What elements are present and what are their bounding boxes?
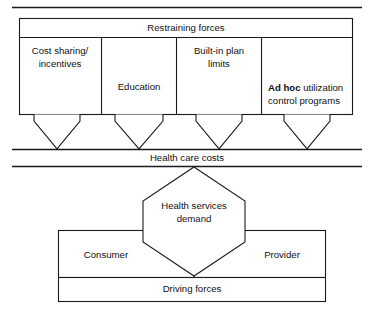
funnel-built-in-plan-limits	[177, 115, 262, 149]
restraining-column-cost-sharing-line1: Cost sharing/	[32, 45, 89, 56]
restraining-forces-label: Restraining forces	[147, 22, 225, 33]
health-services-demand-line2: demand	[177, 213, 212, 224]
ad-hoc-line2: control programs	[268, 95, 340, 106]
restraining-column-built-in-plan-limits-line2: limits	[208, 58, 230, 69]
funnel-education	[102, 115, 177, 149]
restraining-column-built-in-plan-limits-line1: Built-in plan	[194, 45, 244, 56]
driving-forces-label: Driving forces	[163, 283, 222, 294]
restraining-column-education-line1: Education	[118, 81, 161, 92]
ad-hoc-bold-prefix: Ad hoc	[268, 82, 301, 93]
restraining-column-education: Education	[118, 81, 161, 92]
funnel-cost-sharing	[20, 115, 102, 149]
funnel-ad-hoc-utilization	[262, 115, 353, 149]
force-field-diagram: Restraining forces Cost sharing/ incenti…	[0, 0, 374, 311]
health-services-demand-line1: Health services	[161, 200, 227, 211]
diagram-canvas: Restraining forces Cost sharing/ incenti…	[0, 0, 374, 311]
driving-actor-provider-label: Provider	[264, 249, 301, 260]
driving-actor-consumer-label: Consumer	[84, 249, 129, 260]
health-care-costs-label: Health care costs	[150, 152, 224, 163]
ad-hoc-line1-rest: utilization	[303, 82, 343, 93]
restraining-column-cost-sharing-line2: incentives	[39, 58, 82, 69]
ad-hoc-line1: Ad hoc utilization	[268, 82, 343, 93]
